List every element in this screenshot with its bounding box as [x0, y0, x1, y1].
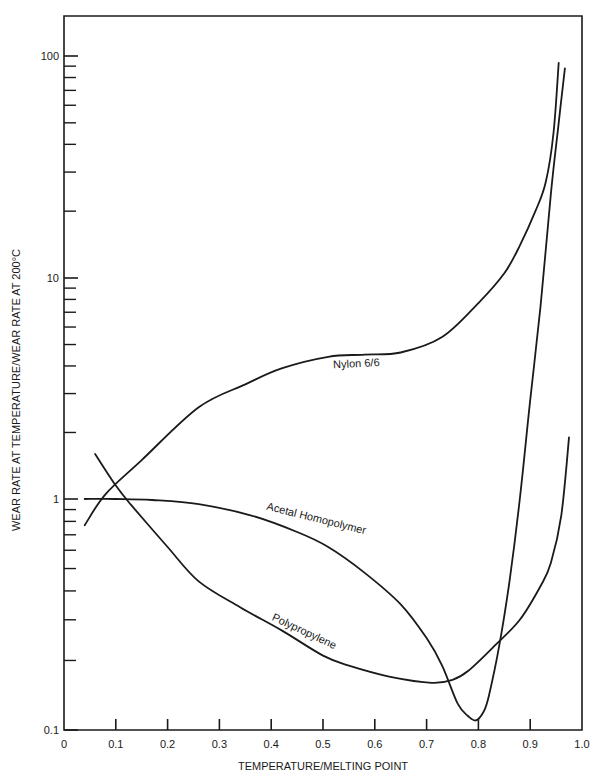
- x-axis-title: TEMPERATURE/MELTING POINT: [238, 760, 408, 772]
- x-tick-label: 0.3: [212, 738, 227, 750]
- x-tick-label: 0.4: [264, 738, 279, 750]
- y-tick-label: 100: [41, 50, 59, 62]
- x-tick-label: 0.8: [471, 738, 486, 750]
- y-axis-ticks: 0.1110100: [41, 50, 78, 736]
- data-curves: [85, 63, 569, 721]
- series-labels: Nylon 6/6Acetal HomopolymerPolypropylene: [266, 356, 380, 651]
- x-tick-label: 0.7: [419, 738, 434, 750]
- wear-rate-chart: 0.1110100 00.10.20.30.40.50.60.70.80.91.…: [0, 0, 604, 783]
- x-tick-label: 0.6: [367, 738, 382, 750]
- curve-nylon-6-6: [85, 63, 559, 525]
- y-axis-title: WEAR RATE AT TEMPERATURE/WEAR RATE AT 20…: [10, 249, 22, 531]
- x-tick-label: 0.1: [108, 738, 123, 750]
- axes-frame: [64, 16, 582, 730]
- x-axis-ticks: 00.10.20.30.40.50.60.70.80.91.0: [61, 719, 590, 750]
- x-tick-label: 0.9: [523, 738, 538, 750]
- x-tick-label: 0: [61, 738, 67, 750]
- y-tick-label: 1: [53, 493, 59, 505]
- x-tick-label: 0.5: [315, 738, 330, 750]
- curve-acetal-homopolymer: [85, 68, 565, 720]
- series-label-nylon-6-6: Nylon 6/6: [333, 356, 380, 370]
- series-label-acetal-homopolymer: Acetal Homopolymer: [266, 500, 368, 536]
- x-tick-label: 1.0: [574, 738, 589, 750]
- x-tick-label: 0.2: [160, 738, 175, 750]
- plot-frame: [64, 16, 582, 730]
- y-tick-label: 10: [47, 272, 59, 284]
- y-tick-label: 0.1: [44, 724, 59, 736]
